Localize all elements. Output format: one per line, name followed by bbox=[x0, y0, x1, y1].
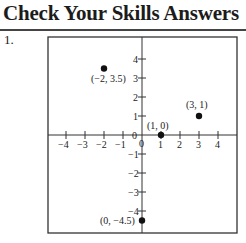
point-label: (−2, 3.5) bbox=[91, 73, 126, 85]
x-tick-label: 3 bbox=[196, 139, 201, 150]
y-tick-label: 0 bbox=[132, 130, 137, 141]
x-tick-label: 1 bbox=[158, 139, 163, 150]
y-tick-label: −1 bbox=[128, 149, 139, 160]
coordinate-plane: −4−3−2−101234 −4−3−2−101234 (−2, 3.5)(3,… bbox=[0, 0, 246, 243]
x-axis-ticks: −4−3−2−101234 bbox=[58, 131, 220, 150]
x-tick-label: 2 bbox=[177, 139, 182, 150]
x-tick-label: −3 bbox=[77, 139, 88, 150]
y-tick-label: 3 bbox=[133, 73, 138, 84]
point-label: (1, 0) bbox=[147, 120, 169, 132]
point-label: (3, 1) bbox=[186, 99, 208, 111]
data-points: (−2, 3.5)(3, 1)(1, 0)(0, −4.5) bbox=[91, 65, 208, 227]
y-tick-label: 1 bbox=[133, 111, 138, 122]
x-tick-label: 4 bbox=[215, 139, 220, 150]
x-tick-label: −1 bbox=[115, 139, 126, 150]
x-tick-label: −2 bbox=[96, 139, 107, 150]
y-tick-label: −3 bbox=[128, 187, 139, 198]
data-point bbox=[101, 65, 107, 71]
data-point bbox=[158, 132, 164, 138]
y-tick-label: 2 bbox=[133, 92, 138, 103]
x-tick-label: 0 bbox=[139, 138, 144, 149]
y-tick-label: −2 bbox=[128, 168, 139, 179]
data-point bbox=[139, 217, 145, 223]
x-tick-label: −4 bbox=[58, 139, 69, 150]
y-tick-label: 4 bbox=[133, 54, 138, 65]
data-point bbox=[196, 113, 202, 119]
point-label: (0, −4.5) bbox=[100, 215, 135, 227]
